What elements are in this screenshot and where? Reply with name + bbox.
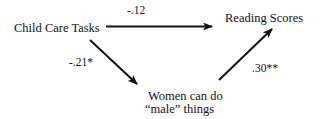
predictor-node-label: Child Care Tasks [14,22,100,35]
a-path-arrow [90,40,137,84]
mediator-node-label-line2: “male” things [145,103,214,116]
a-path-coefficient: -.21* [69,56,93,68]
direct-path-coefficient: -.12 [127,4,145,16]
b-path-coefficient: .30** [252,62,278,74]
outcome-node-label: Reading Scores [225,12,303,25]
